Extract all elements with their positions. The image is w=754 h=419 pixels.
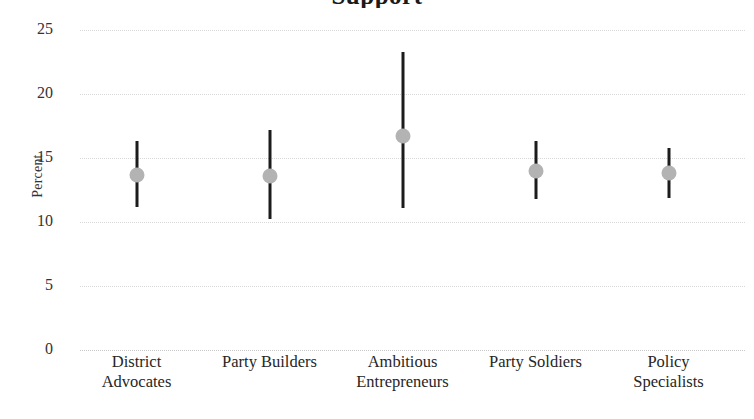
gridline-y-5 xyxy=(80,286,745,288)
y-tick-label-20: 20 xyxy=(7,85,53,101)
plot-area: 0510152025 xyxy=(80,30,745,350)
y-tick-label-25: 25 xyxy=(7,21,53,37)
data-point-marker xyxy=(129,167,144,182)
y-tick-label-15: 15 xyxy=(7,149,53,165)
data-point-marker xyxy=(262,168,277,183)
chart-figure: Support Percent 0510152025 DistrictAdvoc… xyxy=(0,0,754,419)
gridline-y-10 xyxy=(80,222,745,224)
x-tick-label-line: Policy xyxy=(589,352,749,372)
x-tick-label-line: Entrepreneurs xyxy=(323,372,483,392)
y-tick-label-10: 10 xyxy=(7,213,53,229)
chart-title: Support xyxy=(0,0,754,8)
x-tick-label-line: Advocates xyxy=(57,372,217,392)
y-tick-label-5: 5 xyxy=(7,277,53,293)
data-point-marker xyxy=(528,163,543,178)
data-point-marker xyxy=(661,166,676,181)
gridline-y-25 xyxy=(80,30,745,32)
gridline-y-20 xyxy=(80,94,745,96)
data-point-marker xyxy=(395,129,410,144)
x-tick-label-policy-specialists: PolicySpecialists xyxy=(589,352,749,392)
x-tick-label-line: Specialists xyxy=(589,372,749,392)
gridline-y-15 xyxy=(80,158,745,160)
y-tick-label-0: 0 xyxy=(7,341,53,357)
